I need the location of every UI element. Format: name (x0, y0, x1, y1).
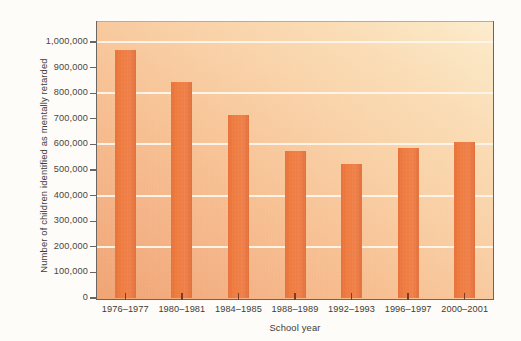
bar (228, 115, 249, 298)
plot-top-border (96, 21, 494, 22)
x-tick-label: 1984–1985 (215, 304, 262, 314)
y-tick-mark (90, 118, 97, 119)
y-tick-mark (90, 297, 97, 298)
x-tick-mark (464, 293, 465, 300)
x-tick-label: 1988–1989 (272, 304, 319, 314)
y-axis-line (96, 21, 97, 300)
plot-area (97, 22, 493, 299)
x-tick-label: 2000–2001 (441, 304, 488, 314)
gridline (97, 41, 493, 43)
bar (171, 82, 192, 298)
y-tick-mark (90, 195, 97, 196)
y-tick-mark (90, 169, 97, 170)
y-tick-mark (90, 41, 97, 42)
x-tick-mark (125, 293, 126, 300)
y-tick-mark (90, 93, 97, 94)
chart-figure: 0100,000200,000300,000400,000500,000600,… (0, 0, 521, 341)
x-tick-label: 1992–1993 (328, 304, 375, 314)
x-tick-label: 1996–1997 (385, 304, 432, 314)
y-tick-mark (90, 144, 97, 145)
y-tick-mark (90, 246, 97, 247)
x-axis-title: School year (97, 322, 493, 333)
x-tick-label: 1980–1981 (158, 304, 205, 314)
plot-right-border (493, 21, 494, 300)
x-tick-mark (351, 293, 352, 300)
bar (341, 164, 362, 298)
bar (285, 151, 306, 298)
gridline (97, 143, 493, 145)
bar (454, 142, 475, 298)
y-axis-title: Number of children identified as mentall… (38, 26, 49, 306)
y-tick-mark (90, 67, 97, 68)
y-tick-mark (90, 221, 97, 222)
x-tick-mark (181, 293, 182, 300)
x-tick-mark (294, 293, 295, 300)
gridline (97, 92, 493, 94)
y-tick-mark (90, 272, 97, 273)
bar (115, 50, 136, 298)
bar (398, 148, 419, 298)
x-tick-mark (407, 293, 408, 300)
x-tick-label: 1976–1977 (102, 304, 149, 314)
x-tick-mark (238, 293, 239, 300)
